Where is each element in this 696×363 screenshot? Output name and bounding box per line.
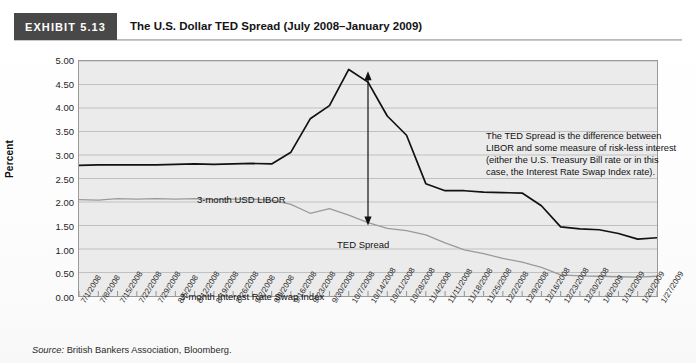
chart-plot-area: 3-month USD LIBOR TED Spread 3-month Int… xyxy=(78,60,658,297)
source-caption: Source: British Bankers Association, Blo… xyxy=(32,345,231,355)
exhibit-number-tag: EXHIBIT 5.13 xyxy=(14,13,117,40)
y-tick-label: 0.00 xyxy=(40,292,74,303)
y-axis-title: Percent xyxy=(4,140,15,178)
exhibit-title: The U.S. Dollar TED Spread (July 2008–Ja… xyxy=(117,13,682,40)
y-tick-label: 4.00 xyxy=(40,102,74,113)
y-tick-label: 2.00 xyxy=(40,197,74,208)
y-tick-label: 3.00 xyxy=(40,149,74,160)
y-tick-label: 3.50 xyxy=(40,126,74,137)
ted-spread-annotation: The TED Spread is the difference between… xyxy=(486,131,682,179)
series-label-ted-spread: TED Spread xyxy=(337,239,389,250)
y-tick-label: 1.00 xyxy=(40,244,74,255)
series-label-libor: 3-month USD LIBOR xyxy=(197,194,286,205)
y-tick-label: 0.50 xyxy=(40,268,74,279)
source-prefix: Source: xyxy=(32,345,64,355)
header-divider xyxy=(14,40,682,41)
exhibit-page: EXHIBIT 5.13 The U.S. Dollar TED Spread … xyxy=(0,0,696,363)
exhibit-header: EXHIBIT 5.13 The U.S. Dollar TED Spread … xyxy=(14,13,682,40)
y-tick-label: 2.50 xyxy=(40,173,74,184)
y-tick-label: 1.50 xyxy=(40,220,74,231)
y-tick-label: 4.50 xyxy=(40,78,74,89)
source-text: British Bankers Association, Bloomberg. xyxy=(67,345,232,355)
y-axis-tick-labels: 0.000.501.001.502.002.503.003.504.004.50… xyxy=(36,60,74,297)
y-tick-label: 5.00 xyxy=(40,55,74,66)
